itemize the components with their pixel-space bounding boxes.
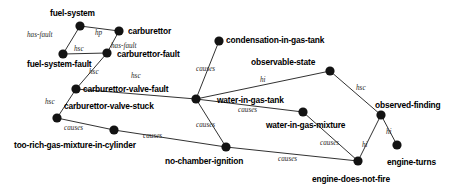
node-label: no-chamber-ignition bbox=[165, 157, 243, 165]
node-label: observable-state bbox=[251, 58, 315, 66]
node-label: carburettor-fault bbox=[117, 50, 180, 58]
node-label: engine-does-not-fire bbox=[312, 175, 390, 183]
node-label: observed-finding bbox=[375, 101, 441, 109]
edge-label: causes bbox=[143, 133, 162, 140]
edge-label: causes bbox=[278, 156, 297, 163]
graph-node[interactable] bbox=[325, 66, 334, 75]
graph-edge bbox=[63, 53, 107, 54]
edge-label: causes bbox=[196, 122, 215, 129]
graph-edge bbox=[330, 71, 381, 115]
edge-label: hsc bbox=[131, 73, 141, 80]
graph-node[interactable] bbox=[214, 36, 223, 45]
graph-edge bbox=[358, 115, 381, 161]
graph-node[interactable] bbox=[71, 84, 80, 93]
edge-label: hsc bbox=[74, 46, 84, 53]
semantic-network-diagram: fuel-systemcarburettorfuel-system-faultc… bbox=[0, 0, 465, 188]
graph-node[interactable] bbox=[392, 140, 401, 149]
edge-label: causes bbox=[320, 140, 339, 147]
node-label: carburettor-valve-stuck bbox=[64, 102, 154, 110]
graph-node[interactable] bbox=[114, 26, 123, 35]
edge-label: hi bbox=[386, 129, 392, 136]
node-label: engine-turns bbox=[387, 158, 436, 166]
edge-label: has-fault bbox=[111, 43, 137, 50]
edge-label: hp bbox=[95, 30, 102, 37]
edge-label: causes bbox=[64, 125, 83, 132]
graph-node[interactable] bbox=[109, 125, 118, 134]
node-label: carburettor-valve-fault bbox=[83, 85, 168, 93]
graph-node[interactable] bbox=[52, 113, 61, 122]
edge-label: has-fault bbox=[27, 32, 53, 39]
edge-label: hsc bbox=[45, 99, 55, 106]
graph-node[interactable] bbox=[75, 21, 84, 30]
node-label: fuel-system-fault bbox=[27, 60, 91, 68]
graph-node[interactable] bbox=[376, 110, 385, 119]
node-label: carburettor bbox=[128, 27, 171, 35]
node-label: fuel-system bbox=[50, 9, 95, 17]
node-label: too-rich-gas-mixture-in-cylinder bbox=[14, 141, 136, 149]
edge-label: causes bbox=[196, 66, 215, 73]
edge-label: hi bbox=[260, 77, 266, 84]
node-label: water-in-gas-tank bbox=[217, 96, 284, 104]
edge-label: hsc bbox=[89, 69, 99, 76]
node-label: condensation-in-gas-tank bbox=[226, 36, 324, 44]
graph-node[interactable] bbox=[191, 94, 200, 103]
edge-label: hi bbox=[362, 142, 368, 149]
graph-node[interactable] bbox=[221, 142, 230, 151]
edge-label: causes bbox=[238, 107, 257, 114]
graph-node[interactable] bbox=[58, 49, 67, 58]
node-label: water-in-gas-mixture bbox=[266, 121, 345, 129]
graph-node[interactable] bbox=[353, 156, 362, 165]
graph-node[interactable] bbox=[298, 107, 307, 116]
edge-label: hsc bbox=[356, 85, 366, 92]
